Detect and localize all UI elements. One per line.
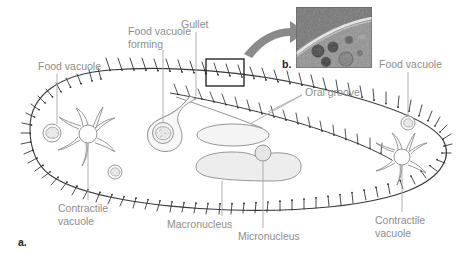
label-food-vacuole-right: Food vacuole: [379, 58, 442, 71]
forming-food-vacuole: [153, 123, 174, 144]
micrograph-panel-b: [296, 7, 372, 68]
label-micronucleus: Micronucleus: [238, 230, 300, 243]
cytoplasmic-vesicle: [197, 124, 269, 146]
panel-label-b: b.: [282, 58, 291, 70]
food-vacuole-right: [401, 116, 415, 130]
micronucleus: [255, 145, 271, 161]
label-gullet: Gullet: [181, 18, 208, 31]
label-contractile-vacuole-left: Contractile vacuole: [58, 202, 108, 227]
label-food-vacuole-left: Food vacuole: [38, 60, 101, 73]
label-contractile-vacuole-right: Contractile vacuole: [375, 214, 425, 239]
paramecium-figure: Food vacuole Food vacuole forming Gullet…: [0, 0, 473, 254]
label-oral-groove: Oral groove: [305, 86, 360, 99]
panel-label-a: a.: [18, 236, 27, 248]
label-macronucleus: Macronucleus: [167, 218, 232, 231]
food-vacuole-lower-left: [108, 165, 122, 179]
food-vacuole-upper-left: [43, 124, 61, 142]
macronucleus: [196, 152, 301, 181]
